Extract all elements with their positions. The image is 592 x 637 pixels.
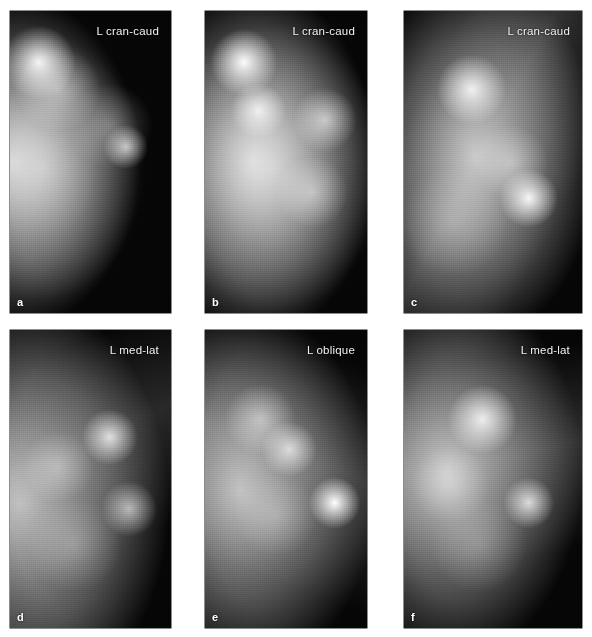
panel-letter-f: f bbox=[411, 611, 415, 623]
view-label-e: L oblique bbox=[307, 344, 355, 356]
panel-letter-a: a bbox=[17, 296, 23, 308]
view-label-a: L cran-caud bbox=[96, 25, 159, 37]
mammogram-panel-b[interactable]: L cran-caud b bbox=[205, 11, 367, 313]
mammogram-panel-f[interactable]: L med-lat f bbox=[404, 330, 582, 628]
view-label-c: L cran-caud bbox=[507, 25, 570, 37]
panel-letter-c: c bbox=[411, 296, 417, 308]
panel-letter-b: b bbox=[212, 296, 219, 308]
mammogram-image-f bbox=[404, 330, 582, 628]
mammogram-panel-e[interactable]: L oblique e bbox=[205, 330, 367, 628]
mammogram-panel-d[interactable]: L med-lat d bbox=[10, 330, 171, 628]
mammogram-image-e bbox=[205, 330, 367, 628]
mammogram-image-a bbox=[10, 11, 171, 313]
mammogram-image-b bbox=[205, 11, 367, 313]
mammogram-figure: L cran-caud a L cran-caud b L cran-caud … bbox=[0, 0, 592, 637]
mammogram-image-d bbox=[10, 330, 171, 628]
mammogram-panel-c[interactable]: L cran-caud c bbox=[404, 11, 582, 313]
view-label-f: L med-lat bbox=[521, 344, 570, 356]
mammogram-panel-a[interactable]: L cran-caud a bbox=[10, 11, 171, 313]
view-label-b: L cran-caud bbox=[292, 25, 355, 37]
panel-letter-d: d bbox=[17, 611, 24, 623]
panel-letter-e: e bbox=[212, 611, 218, 623]
view-label-d: L med-lat bbox=[110, 344, 159, 356]
mammogram-image-c bbox=[404, 11, 582, 313]
